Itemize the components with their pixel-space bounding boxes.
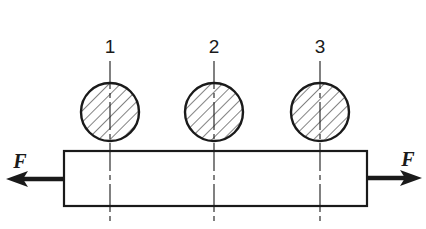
left-force-label: F xyxy=(12,150,27,172)
section-2: 2 xyxy=(182,36,246,222)
right-force-label: F xyxy=(400,148,415,170)
section-1: 1 xyxy=(78,36,142,222)
section-label-2: 2 xyxy=(209,36,220,57)
left-force: F xyxy=(6,150,64,187)
right-force: F xyxy=(367,148,422,186)
section-3: 3 xyxy=(288,36,352,222)
section-label-3: 3 xyxy=(315,36,326,57)
section-label-1: 1 xyxy=(105,36,116,57)
pin-bar-diagram: 1 2 3 F F xyxy=(0,0,426,229)
